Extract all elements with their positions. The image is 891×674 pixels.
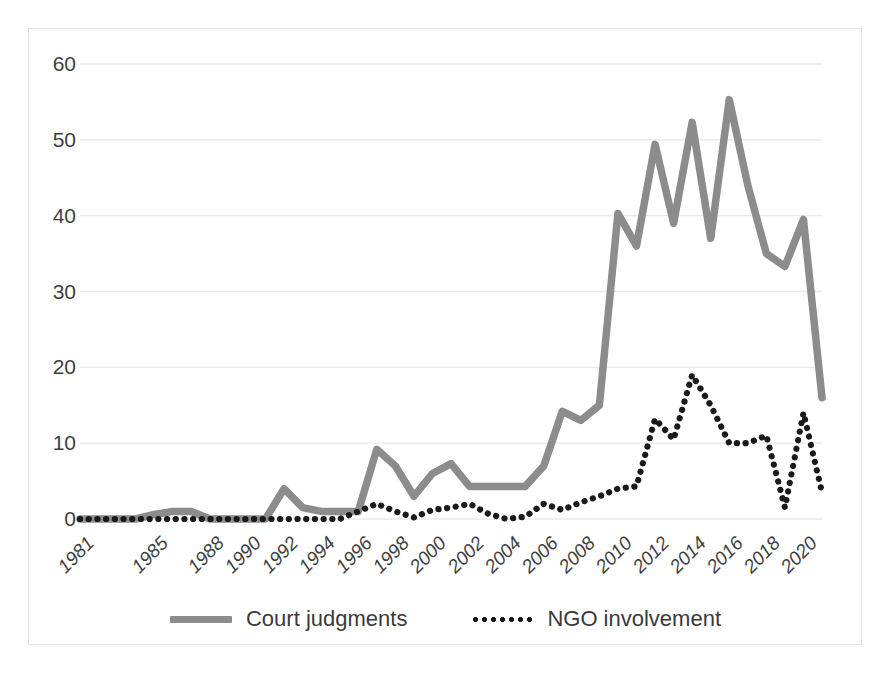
chart-legend: Court judgments NGO involvement [0, 598, 891, 640]
legend-entry-court-judgments[interactable]: Court judgments [170, 608, 407, 630]
dotted-line-swatch-icon [471, 616, 533, 623]
chart-container: 0102030405060 19811985198819901992199419… [0, 0, 891, 674]
x-axis-tick-label: 1985 [121, 533, 171, 583]
solid-line-swatch-icon [170, 616, 232, 623]
x-axis: 1981198519881990199219941996199820002002… [0, 0, 891, 674]
legend-entry-ngo-involvement[interactable]: NGO involvement [471, 608, 721, 630]
legend-label-court-judgments: Court judgments [246, 608, 407, 630]
x-axis-tick-label: 1981 [47, 533, 97, 583]
legend-label-ngo-involvement: NGO involvement [547, 608, 721, 630]
